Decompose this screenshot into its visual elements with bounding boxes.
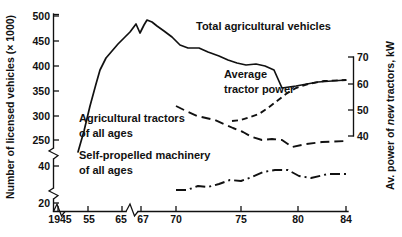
x-tick-label-55: 55 — [83, 213, 95, 225]
right-tick-label-60: 60 — [357, 78, 369, 90]
x-tick-label-70: 70 — [170, 213, 182, 225]
right-axis-title-part1: Av. power of — [384, 125, 396, 190]
series-label-total-agricultural-vehicles: Total agricultural vehicles — [196, 20, 331, 32]
series-labels: Total agricultural vehicles Average trac… — [79, 20, 331, 176]
right-tick-label-50: 50 — [357, 104, 369, 116]
left-tick-label-350: 350 — [32, 85, 50, 97]
series-label-average-tractor-power-line2: tractor power — [224, 83, 295, 95]
right-tick-label-40: 40 — [357, 130, 369, 142]
right-y-axis: 70 60 50 40 Av. power of new tractors, k… — [348, 41, 396, 190]
x-axis: 1945 55 65 67 70 75 80 84 — [48, 204, 352, 225]
right-axis-title-italic: new — [384, 104, 396, 125]
left-tick-label-500: 500 — [32, 10, 50, 22]
right-tick-label-70: 70 — [357, 51, 369, 63]
left-axis-break-upper — [49, 148, 58, 159]
x-tick-label-1945: 1945 — [48, 213, 72, 225]
left-y-axis: 500 450 400 350 300 250 40 20 Number of … — [4, 10, 59, 211]
right-axis-title-part3: tractors, kW — [384, 41, 396, 105]
series-label-agricultural-tractors-line2: of all ages — [79, 127, 133, 139]
left-tick-label-400: 400 — [32, 60, 50, 72]
x-tick-label-67: 67 — [137, 213, 149, 225]
left-tick-label-250: 250 — [32, 134, 50, 146]
x-tick-label-80: 80 — [292, 213, 304, 225]
chart-plot-area: 500 450 400 350 300 250 40 20 Number of … — [0, 0, 402, 237]
left-axis-title: Number of licensed vehicles (× 1000) — [4, 15, 16, 199]
x-tick-label-84: 84 — [340, 213, 352, 225]
series-label-agricultural-tractors-line1: Agricultural tractors — [79, 112, 185, 124]
series-label-self-propelled-machinery-line1: Self-propelled machinery — [79, 149, 211, 161]
series-label-average-tractor-power-line1: Average — [224, 68, 267, 80]
left-tick-label-20: 20 — [38, 197, 50, 209]
series-label-self-propelled-machinery-line2: of all ages — [79, 164, 133, 176]
chart-figure: 500 450 400 350 300 250 40 20 Number of … — [0, 0, 402, 237]
left-tick-label-450: 450 — [32, 35, 50, 47]
right-axis-title: Av. power of new tractors, kW — [384, 41, 396, 190]
left-tick-label-300: 300 — [32, 110, 50, 122]
x-tick-label-75: 75 — [235, 213, 247, 225]
series-line-self-propelled-machinery — [176, 170, 346, 190]
left-axis-break-lower — [49, 188, 58, 199]
x-tick-label-65: 65 — [115, 213, 127, 225]
left-tick-label-40: 40 — [38, 160, 50, 172]
